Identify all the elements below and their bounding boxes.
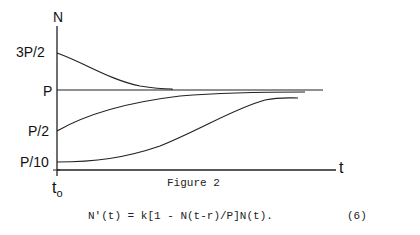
y-tick-p2: P/2 — [28, 124, 49, 138]
y-tick-p10: P/10 — [20, 155, 49, 169]
origin-label: to — [52, 180, 63, 199]
y-tick-3p2: 3P/2 — [16, 45, 45, 59]
figure-caption: Figure 2 — [167, 178, 220, 189]
equation-number: (6) — [347, 211, 367, 222]
y-axis-label: N — [53, 10, 63, 24]
curve-3p2 — [57, 53, 172, 90]
x-axis-label: t — [339, 160, 343, 176]
curve-p2 — [57, 92, 305, 131]
y-tick-p: P — [43, 84, 52, 98]
curve-p10 — [57, 98, 298, 162]
equation: N'(t) = k[1 - N(t-r)/P]N(t). — [88, 211, 273, 222]
logistic-growth-figure — [0, 0, 420, 235]
